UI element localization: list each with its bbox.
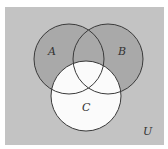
label-b: B [117, 45, 126, 58]
venn-diagram: A B C U [0, 0, 168, 149]
label-universe: U [143, 125, 153, 138]
label-c: C [82, 101, 91, 114]
label-a: A [47, 45, 56, 58]
